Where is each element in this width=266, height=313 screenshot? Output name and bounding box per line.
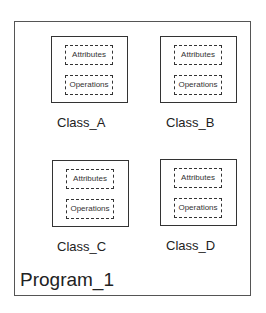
- class-label-b: Class_B: [166, 115, 214, 130]
- operations-compartment: Operations: [66, 199, 114, 219]
- class-box-a: Attributes Operations: [51, 36, 128, 103]
- class-box-c: Attributes Operations: [52, 160, 129, 227]
- attributes-compartment: Attributes: [174, 168, 222, 188]
- class-box-b: Attributes Operations: [160, 36, 237, 103]
- class-label-c: Class_C: [57, 239, 106, 254]
- class-label-d: Class_D: [166, 238, 215, 253]
- attributes-compartment: Attributes: [66, 169, 114, 189]
- attributes-compartment: Attributes: [65, 45, 113, 65]
- class-label-a: Class_A: [57, 115, 105, 130]
- operations-compartment: Operations: [174, 198, 222, 218]
- class-box-d: Attributes Operations: [160, 159, 237, 226]
- attributes-compartment: Attributes: [174, 45, 222, 65]
- operations-compartment: Operations: [65, 75, 113, 95]
- operations-compartment: Operations: [174, 75, 222, 95]
- program-label: Program_1: [20, 269, 114, 291]
